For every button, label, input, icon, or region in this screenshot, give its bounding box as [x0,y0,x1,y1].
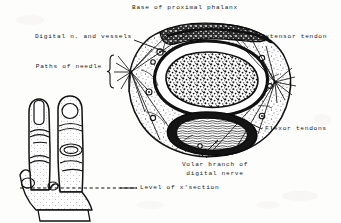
paths-of-needle-bracket [107,55,114,88]
label-level-of-cross-section: Level of x'section [140,184,250,193]
finger-right-nail [62,104,78,119]
flexor-tendons-bundle [176,118,247,150]
hand-lower-block [38,210,90,221]
finger-diagram-group [20,96,137,221]
label-paths-of-needle: Paths of needle [20,63,102,72]
label-volar-branch-line1: Volar branch of [165,161,265,170]
label-volar-branch-line2: digital nerve [165,170,265,179]
phalanx-bone [166,52,258,107]
label-extensor-tendon: Extensor tendon [261,33,339,42]
finger-left-nail [34,101,44,125]
label-flexor-tendons: Flexor tendons [265,125,337,134]
figure-title: Base of proximal phalanx [120,4,250,13]
cross-section-group [129,23,291,156]
label-digital-nerve-and-vessels: Digital n. and vessels [20,33,132,42]
